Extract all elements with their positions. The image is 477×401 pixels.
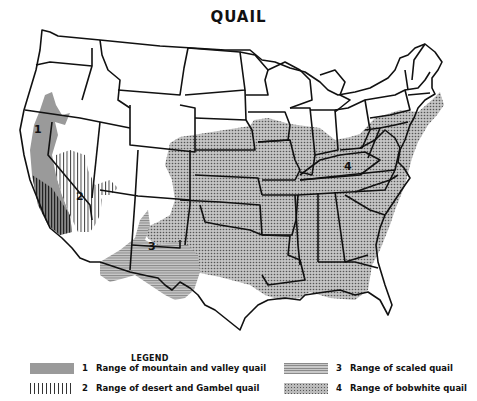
horizontal-hatch-swatch-icon [284, 363, 328, 374]
map-label-1: 1 [34, 123, 42, 136]
legend-label: Range of bobwhite quail [350, 383, 467, 393]
map-label-3: 3 [148, 240, 156, 253]
legend-item-mountain-valley: 1 Range of mountain and valley quail [30, 362, 266, 374]
us-map: 1 2 3 4 [0, 0, 477, 401]
legend-number: 2 [82, 383, 96, 393]
map-label-4: 4 [344, 160, 352, 173]
legend-label: Range of mountain and valley quail [96, 363, 266, 373]
vertical-hatch-swatch-icon [30, 383, 74, 394]
legend-item-desert-gambel: 2 Range of desert and Gambel quail [30, 382, 259, 394]
legend-label: Range of desert and Gambel quail [96, 383, 259, 393]
legend-number: 4 [336, 383, 350, 393]
legend-number: 3 [336, 363, 350, 373]
solid-gray-swatch-icon [30, 363, 74, 374]
legend-label: Range of scaled quail [350, 363, 453, 373]
legend-item-scaled: 3 Range of scaled quail [284, 362, 453, 374]
map-label-2: 2 [76, 190, 84, 203]
dotted-swatch-icon [284, 383, 328, 394]
legend-item-bobwhite: 4 Range of bobwhite quail [284, 382, 467, 394]
legend-number: 1 [82, 363, 96, 373]
